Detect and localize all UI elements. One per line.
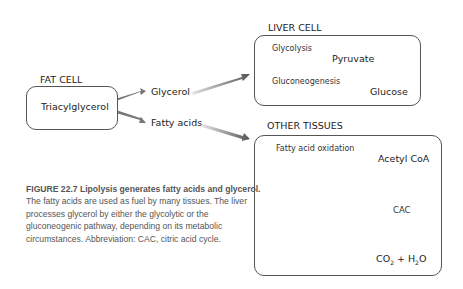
co-text: CO	[376, 253, 390, 264]
figure-caption: FIGURE 22.7 Lipolysis generates fatty ac…	[26, 183, 266, 245]
plus-h-text: + H	[394, 253, 415, 264]
cac-label: CAC	[393, 205, 411, 215]
gluconeogenesis-label: Gluconeogenesis	[272, 77, 340, 86]
fatty-acids-label: Fatty acids	[151, 117, 202, 128]
glycolysis-label: Glycolysis	[272, 44, 312, 53]
caption-text: The fatty acids are used as fuel by many…	[26, 196, 247, 243]
acetyl-coa-label: Acetyl CoA	[378, 153, 429, 164]
caption-title: FIGURE 22.7 Lipolysis generates fatty ac…	[26, 184, 261, 194]
pyruvate-label: Pyruvate	[332, 53, 374, 64]
fat-cell-box: Triacylglycerol	[26, 86, 118, 130]
arrow-glycerol-to-liver-icon	[192, 74, 250, 95]
liver-cell-title: LIVER CELL	[268, 22, 321, 33]
o-text: O	[419, 253, 426, 264]
fat-cell-title: FAT CELL	[40, 74, 82, 85]
glycerol-label: Glycerol	[151, 86, 190, 97]
co2-h2o-label: CO2 + H2O	[376, 253, 426, 266]
arrow-fatty-acids-to-tissues-icon	[202, 124, 250, 141]
other-tissues-title: OTHER TISSUES	[267, 120, 343, 131]
fatty-acid-oxidation-label: Fatty acid oxidation	[276, 144, 354, 153]
diagram-canvas: FAT CELL Triacylglycerol Glycerol Fatty …	[0, 0, 463, 289]
arrow-to-fatty-acids-icon	[116, 110, 146, 123]
arrow-to-glycerol-icon	[115, 88, 146, 101]
triacylglycerol-label: Triacylglycerol	[41, 101, 109, 112]
glucose-label: Glucose	[370, 86, 408, 97]
